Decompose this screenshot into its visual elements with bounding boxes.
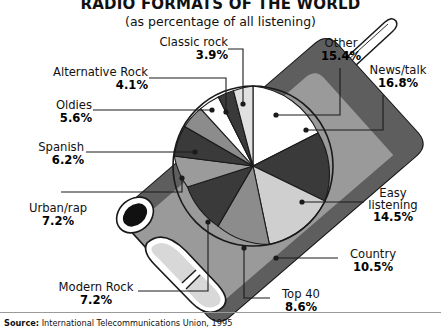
label-news-talk-pct: 16.8% — [356, 77, 440, 90]
source-divider — [0, 312, 441, 313]
label-modern-rock-name: Modern Rock — [52, 281, 140, 294]
label-alternative-rock: Alternative Rock 4.1% — [20, 66, 148, 91]
label-easy-listening-pct: 14.5% — [356, 211, 430, 224]
label-classic-rock-pct: 3.9% — [90, 49, 228, 62]
label-spanish: Spanish 6.2% — [6, 141, 84, 166]
source-note: Source: International Telecommunications… — [4, 318, 232, 328]
label-other-pct: 15.4% — [308, 50, 374, 63]
label-modern-rock-pct: 7.2% — [52, 294, 140, 307]
label-news-talk-name: News/talk — [356, 64, 440, 77]
label-alternative-rock-pct: 4.1% — [20, 79, 148, 92]
page-title: RADIO FORMATS OF THE WORLD — [0, 0, 441, 13]
label-country-pct: 10.5% — [340, 261, 406, 274]
source-prefix: Source: — [4, 318, 39, 328]
label-alternative-rock-name: Alternative Rock — [20, 66, 148, 79]
label-other: Other 15.4% — [308, 37, 374, 62]
label-easy-listening: Easy listening 14.5% — [356, 188, 430, 224]
label-oldies-pct: 5.6% — [10, 112, 92, 125]
label-country-name: Country — [340, 248, 406, 261]
infographic-canvas: RADIO FORMATS OF THE WORLD (as percentag… — [0, 0, 441, 334]
label-spanish-name: Spanish — [6, 141, 84, 154]
label-classic-rock: Classic rock 3.9% — [90, 36, 228, 61]
label-country: Country 10.5% — [340, 248, 406, 273]
label-classic-rock-name: Classic rock — [90, 36, 228, 49]
label-oldies: Oldies 5.6% — [10, 99, 92, 124]
source-text: International Telecommunications Union, … — [42, 318, 233, 328]
label-modern-rock: Modern Rock 7.2% — [52, 281, 140, 306]
label-urban-rap-pct: 7.2% — [14, 215, 102, 228]
label-spanish-pct: 6.2% — [6, 154, 84, 167]
label-top-40-name: Top 40 — [272, 288, 330, 301]
label-urban-rap-name: Urban/rap — [14, 202, 102, 215]
label-other-name: Other — [308, 37, 374, 50]
label-news-talk: News/talk 16.8% — [356, 64, 440, 89]
label-oldies-name: Oldies — [10, 99, 92, 112]
page-subtitle: (as percentage of all listening) — [0, 14, 441, 29]
label-urban-rap: Urban/rap 7.2% — [14, 202, 102, 227]
label-top-40: Top 40 8.6% — [272, 288, 330, 313]
